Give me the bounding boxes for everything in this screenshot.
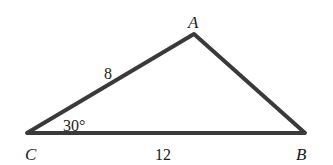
side-label-cb: 12	[155, 146, 171, 163]
triangle-diagram: A C B 8 12 30°	[0, 0, 333, 165]
vertex-label-a: A	[187, 13, 199, 32]
vertex-label-c: C	[25, 145, 37, 164]
vertex-label-b: B	[296, 145, 307, 164]
angle-label-c: 30°	[63, 117, 85, 134]
side-label-ca: 8	[104, 65, 112, 82]
